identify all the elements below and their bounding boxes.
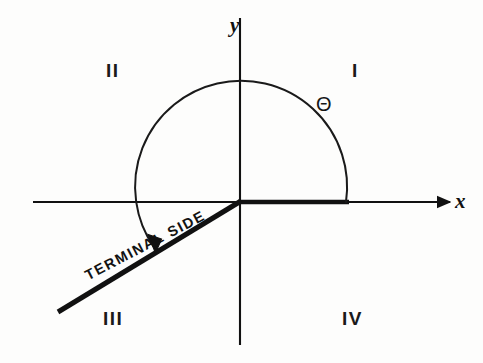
quadrant-label-ii: II bbox=[106, 60, 120, 82]
terminal-side-ray bbox=[58, 201, 241, 312]
theta-angle-label: Θ bbox=[316, 93, 332, 116]
angle-diagram-figure: I II III IV x y Θ TERMINAL SIDE bbox=[0, 0, 483, 363]
quadrant-label-i: I bbox=[352, 60, 359, 82]
quadrant-label-iii: III bbox=[103, 308, 123, 330]
y-axis-label: y bbox=[230, 13, 239, 38]
quadrant-label-iv: IV bbox=[342, 308, 363, 330]
x-axis-label: x bbox=[455, 189, 466, 214]
diagram-canvas bbox=[0, 0, 483, 363]
